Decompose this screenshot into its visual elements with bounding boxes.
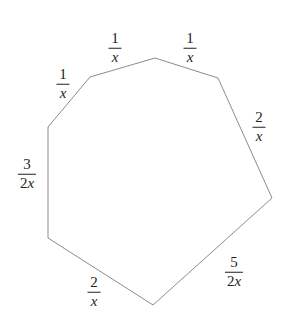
fraction-numerator: 3 <box>21 157 33 174</box>
fraction-denominator: x <box>185 49 196 66</box>
side-label-top-left: 1 x <box>109 31 122 66</box>
fraction-numerator: 2 <box>253 110 265 127</box>
denominator-variable: x <box>187 49 194 65</box>
denominator-coefficient: 2 <box>227 273 235 289</box>
heptagon-shape <box>0 0 290 330</box>
side-label-top-right: 1 x <box>184 31 197 66</box>
denominator-variable: x <box>27 175 34 191</box>
fraction-denominator: 2x <box>18 175 36 192</box>
denominator-variable: x <box>256 128 263 144</box>
fraction-denominator: x <box>89 293 100 310</box>
fraction: 2 x <box>88 275 101 310</box>
denominator-variable: x <box>112 49 119 65</box>
fraction-numerator: 1 <box>109 31 121 48</box>
denominator-variable: x <box>234 273 241 289</box>
fraction-numerator: 2 <box>88 275 100 292</box>
side-label-lower-right: 5 2x <box>225 255 243 290</box>
fraction-denominator: x <box>110 49 121 66</box>
fraction-numerator: 1 <box>57 67 69 84</box>
fraction: 1 x <box>109 31 122 66</box>
fraction-numerator: 1 <box>184 31 196 48</box>
denominator-variable: x <box>60 85 67 101</box>
fraction: 1 x <box>57 67 70 102</box>
fraction: 1 x <box>184 31 197 66</box>
fraction: 2 x <box>253 110 266 145</box>
side-label-upper-left: 1 x <box>57 67 70 102</box>
side-label-bottom-left: 2 x <box>88 275 101 310</box>
fraction-denominator: x <box>58 85 69 102</box>
fraction-numerator: 5 <box>228 255 240 272</box>
denominator-coefficient: 2 <box>20 175 28 191</box>
figure-root: 1 x 1 x 1 x 2 x 3 2x <box>0 0 290 330</box>
fraction-denominator: 2x <box>225 273 243 290</box>
side-label-left: 3 2x <box>18 157 36 192</box>
fraction: 5 2x <box>225 255 243 290</box>
fraction-denominator: x <box>254 128 265 145</box>
denominator-variable: x <box>91 293 98 309</box>
fraction: 3 2x <box>18 157 36 192</box>
side-label-right: 2 x <box>253 110 266 145</box>
